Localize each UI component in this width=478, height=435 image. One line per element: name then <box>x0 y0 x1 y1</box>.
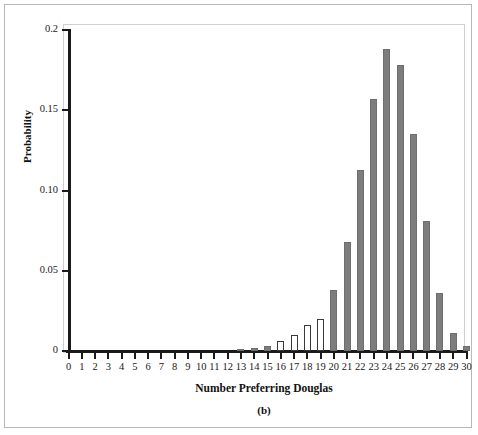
x-tick-mark <box>200 353 202 359</box>
bar <box>410 134 417 351</box>
x-tick-mark <box>426 353 428 359</box>
x-axis-title: Number Preferring Douglas <box>63 382 465 394</box>
bar <box>317 319 324 351</box>
bar-series <box>0 0 478 351</box>
x-tick-label: 30 <box>459 361 475 373</box>
bar <box>436 293 443 351</box>
x-tick-mark <box>320 353 322 359</box>
bar <box>251 348 258 351</box>
bar <box>383 49 390 351</box>
bar <box>370 99 377 351</box>
x-tick-mark <box>439 353 441 359</box>
x-tick-mark <box>134 353 136 359</box>
bar <box>397 65 404 351</box>
bar <box>277 341 284 351</box>
figure-page: 00.050.100.150.2 01234567891011121314151… <box>0 0 478 435</box>
x-tick-mark <box>452 353 454 359</box>
x-tick-mark <box>412 353 414 359</box>
x-tick-mark <box>240 353 242 359</box>
x-tick-mark <box>174 353 176 359</box>
x-tick-mark <box>107 353 109 359</box>
bar <box>291 335 298 351</box>
x-tick-mark <box>399 353 401 359</box>
bar <box>463 346 470 351</box>
x-tick-mark <box>386 353 388 359</box>
y-axis-title: Probability <box>21 149 33 163</box>
bar <box>330 290 337 351</box>
x-tick-mark <box>147 353 149 359</box>
x-tick-mark <box>373 353 375 359</box>
x-tick-mark <box>160 353 162 359</box>
x-tick-mark <box>346 353 348 359</box>
x-tick-mark <box>267 353 269 359</box>
bar <box>344 242 351 351</box>
bar <box>237 349 244 351</box>
x-tick-mark <box>253 353 255 359</box>
x-tick-mark <box>213 353 215 359</box>
bar <box>304 325 311 351</box>
x-tick-mark <box>121 353 123 359</box>
x-tick-mark <box>94 353 96 359</box>
bar <box>450 333 457 351</box>
panel-label: (b) <box>63 404 465 416</box>
bar <box>423 221 430 351</box>
x-tick-mark <box>227 353 229 359</box>
x-tick-mark <box>293 353 295 359</box>
x-tick-mark <box>466 353 468 359</box>
x-tick-mark <box>333 353 335 359</box>
bar <box>264 346 271 351</box>
x-tick-mark <box>306 353 308 359</box>
x-tick-mark <box>68 353 70 359</box>
x-tick-mark <box>280 353 282 359</box>
x-tick-mark <box>359 353 361 359</box>
x-tick-mark <box>81 353 83 359</box>
bar <box>357 170 364 351</box>
x-tick-mark <box>187 353 189 359</box>
